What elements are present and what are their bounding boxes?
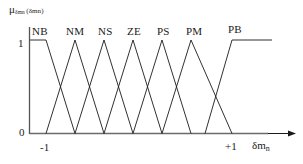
membership-curve-nb	[30, 40, 75, 134]
fuzzy-membership-chart: μδmn(δmn) 1 0 -1 +1 δmn NB NM NS ZE PS P…	[0, 0, 303, 164]
set-label-pb: PB	[228, 24, 242, 35]
membership-curve-ze	[104, 40, 162, 134]
set-label-ze: ZE	[127, 26, 141, 37]
set-label-nm: NM	[66, 26, 84, 37]
y-axis-title-subscript: δmn	[15, 9, 25, 15]
x-axis-title-base: δm	[252, 139, 266, 151]
set-label-nb: NB	[32, 26, 48, 37]
x-tick-label-minus-one: -1	[40, 142, 49, 153]
y-axis-title: μδmn(δmn)	[9, 4, 44, 16]
x-axis-title: δmn	[252, 140, 270, 153]
y-axis-title-arg: (δmn)	[26, 7, 43, 15]
membership-curve-pb	[205, 40, 272, 134]
y-tick-label-zero: 0	[19, 127, 25, 138]
set-label-ns: NS	[98, 26, 112, 37]
set-label-pm: PM	[186, 26, 202, 37]
membership-curve-ps	[133, 40, 191, 134]
y-tick-label-one: 1	[18, 38, 24, 49]
membership-curve-ns	[75, 40, 133, 134]
set-label-ps: PS	[157, 26, 170, 37]
x-axis-arrow-head	[288, 131, 296, 137]
membership-curve-nm	[46, 40, 104, 134]
x-axis-title-subscript: n	[266, 144, 270, 153]
membership-curve-pm	[162, 40, 232, 134]
x-tick-label-plus-one: +1	[225, 141, 237, 152]
